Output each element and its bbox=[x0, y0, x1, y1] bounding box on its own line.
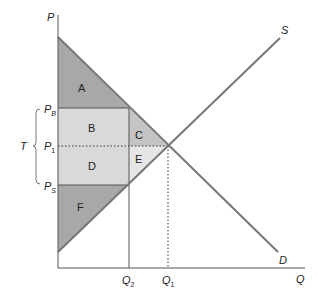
region-c-label: C bbox=[135, 129, 143, 141]
tax-label: T bbox=[20, 140, 28, 152]
region-e-label: E bbox=[135, 153, 142, 165]
buyer-price-label: PB bbox=[44, 103, 56, 117]
seller-price-label: PS bbox=[44, 180, 56, 194]
region-a-label: A bbox=[78, 82, 86, 94]
region-b-label: B bbox=[88, 122, 95, 134]
tax-brace bbox=[33, 109, 40, 184]
region-f-label: F bbox=[77, 201, 84, 213]
region-d-label: D bbox=[88, 160, 96, 172]
equilibrium-price-label: P1 bbox=[44, 140, 55, 154]
demand-curve-label: D bbox=[279, 254, 287, 266]
tax-incidence-diagram: P Q S D PB P1 PS Q2 Q1 T A B C D E F bbox=[0, 0, 326, 295]
price-axis-label: P bbox=[47, 11, 55, 23]
quantity-axis-label: Q bbox=[296, 273, 305, 285]
supply-curve-label: S bbox=[281, 24, 289, 36]
q2-label: Q2 bbox=[122, 274, 135, 288]
q1-label: Q1 bbox=[162, 274, 175, 288]
